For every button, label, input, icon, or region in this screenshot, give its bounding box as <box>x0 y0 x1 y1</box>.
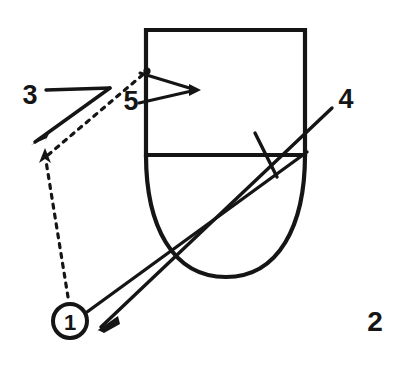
leader-line-5 <box>139 73 201 103</box>
technical-figure: 1 3 5 4 2 <box>0 0 394 366</box>
leader-5-upper-line <box>140 73 196 90</box>
leader-1-shaft <box>87 152 307 312</box>
leader-5-apex <box>189 84 201 96</box>
dashed-lower-segment <box>46 161 68 297</box>
component-body-outline <box>146 30 305 277</box>
body-rectangle <box>146 30 305 155</box>
ref-label-1: 1 <box>64 310 76 335</box>
leader-3-horizontal <box>46 88 110 90</box>
callout-1-group: 1 <box>53 304 87 338</box>
figure-drawing-canvas: 1 3 5 4 2 <box>0 0 394 366</box>
figure-number-label: 2 <box>367 306 383 337</box>
leader-line-1-solid <box>87 152 307 312</box>
ref-label-4: 4 <box>338 84 353 114</box>
ref-label-5: 5 <box>123 86 138 116</box>
rounded-tip-curve <box>146 155 305 277</box>
ref-label-3: 3 <box>22 80 37 110</box>
